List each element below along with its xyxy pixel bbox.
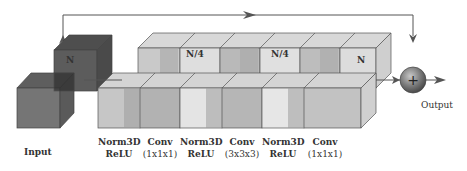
layer-label-1: Norm3D ReLU <box>98 136 140 160</box>
layer-3-line2: ReLU <box>180 148 222 160</box>
layer-label-4: Conv (3x3x3) <box>222 136 262 160</box>
layer-5-line2: ReLU <box>262 148 304 160</box>
layer-2-line1: Conv <box>140 136 180 148</box>
output-label: Output <box>421 99 453 111</box>
input-label: Input <box>24 146 52 158</box>
layer-6-line2: (1x1x1) <box>304 148 346 160</box>
layer-5-line1: Norm3D <box>262 136 304 148</box>
input-cube <box>17 73 74 128</box>
layer-3-line1: Norm3D <box>180 136 222 148</box>
layer-label-3: Norm3D ReLU <box>180 136 222 160</box>
layer-4-line2: (3x3x3) <box>222 148 262 160</box>
layer-label-6: Conv (1x1x1) <box>304 136 346 160</box>
layer-2-line2: (1x1x1) <box>140 148 180 160</box>
layer-label-5: Norm3D ReLU <box>262 136 304 160</box>
layer-1-line1: Norm3D <box>98 136 140 148</box>
layer-6-line1: Conv <box>304 136 346 148</box>
channel-label-input-n: N <box>66 54 74 66</box>
lower-accent-2 <box>206 88 222 128</box>
layer-1-line2: ReLU <box>98 148 140 160</box>
lower-accent-1 <box>124 88 140 128</box>
channel-label-output-n: N <box>357 54 365 66</box>
layer-label-2: Conv (1x1x1) <box>140 136 180 160</box>
lower-accent-3 <box>288 88 304 128</box>
sum-symbol: + <box>407 72 419 88</box>
channel-label-bottleneck-1: N/4 <box>186 48 204 60</box>
channel-label-bottleneck-2: N/4 <box>271 48 289 60</box>
layer-4-line1: Conv <box>222 136 262 148</box>
